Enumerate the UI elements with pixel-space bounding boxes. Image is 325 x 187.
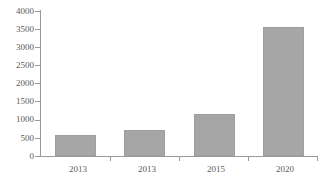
x-axis-tick-mark — [317, 157, 318, 161]
y-axis-tick-label: 2500 — [16, 61, 34, 70]
x-axis-tick-label: 2013 — [69, 165, 87, 174]
plot-area — [41, 11, 318, 156]
y-axis-tick-label: 2000 — [16, 79, 34, 88]
y-axis-tick-labels: 4000 3500 3000 2500 2000 1500 1000 500 0 — [0, 0, 34, 187]
bar-2 — [194, 114, 235, 156]
x-axis-tick-label: 2015 — [207, 165, 225, 174]
x-axis-tick-mark — [248, 157, 249, 161]
y-axis-tick-label: 3500 — [16, 25, 34, 34]
y-axis-tick-label: 4000 — [16, 7, 34, 16]
y-axis-tick-label: 500 — [21, 134, 35, 143]
y-axis-tick-label: 1000 — [16, 115, 34, 124]
bar-1 — [124, 130, 165, 156]
y-axis-tick-label: 1500 — [16, 97, 34, 106]
y-axis-tick-label: 0 — [30, 152, 35, 161]
bar-chart: 4000 3500 3000 2500 2000 1500 1000 500 0 — [0, 0, 325, 187]
x-axis-tick-label: 2013 — [138, 165, 156, 174]
x-axis-tick-label: 2020 — [276, 165, 294, 174]
x-axis-tick-mark — [179, 157, 180, 161]
x-axis-tick-labels: 2013 2013 2015 2020 — [0, 165, 325, 179]
bar-0 — [55, 135, 96, 156]
x-axis-tick-mark — [110, 157, 111, 161]
y-axis-tick-label: 3000 — [16, 43, 34, 52]
bar-3 — [263, 27, 304, 156]
